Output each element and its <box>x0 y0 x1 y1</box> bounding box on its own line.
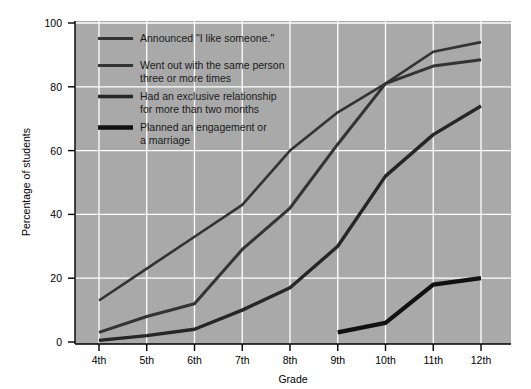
x-tick-label: 11th <box>423 354 443 366</box>
y-tick-label: 80 <box>50 81 62 93</box>
legend-label-0-line1: Announced "I like someone." <box>140 32 274 44</box>
x-tick-label: 9th <box>330 354 345 366</box>
legend-label-3-line2: a marriage <box>140 134 190 146</box>
legend-label-2-line1: Had an exclusive relationship <box>140 90 277 102</box>
x-tick-label: 6th <box>187 354 202 366</box>
x-tick-label: 12th <box>471 354 492 366</box>
x-tick-label: 10th <box>375 354 396 366</box>
legend-label-2-line2: for more than two months <box>140 103 259 115</box>
x-axis-tick-labels: 4th5th6th7th8th9th10th11th12th <box>92 354 492 366</box>
y-tick-label: 100 <box>44 17 62 29</box>
line-chart: 020406080100 4th5th6th7th8th9th10th11th1… <box>0 0 531 389</box>
x-tick-label: 8th <box>283 354 298 366</box>
y-tick-label: 20 <box>50 272 62 284</box>
legend-label-3-line1: Planned an engagement or <box>140 121 267 133</box>
x-tick-label: 5th <box>139 354 154 366</box>
chart-figure: 020406080100 4th5th6th7th8th9th10th11th1… <box>0 0 531 389</box>
x-tick-label: 7th <box>235 354 250 366</box>
y-tick-label: 60 <box>50 145 62 157</box>
y-tick-label: 40 <box>50 208 62 220</box>
legend-label-1-line2: three or more times <box>140 72 231 84</box>
x-tick-label: 4th <box>92 354 107 366</box>
legend-label-1-line1: Went out with the same person <box>140 59 285 71</box>
y-axis-title: Percentage of students <box>20 128 32 236</box>
x-axis-title: Grade <box>278 373 307 385</box>
y-tick-label: 0 <box>56 336 62 348</box>
